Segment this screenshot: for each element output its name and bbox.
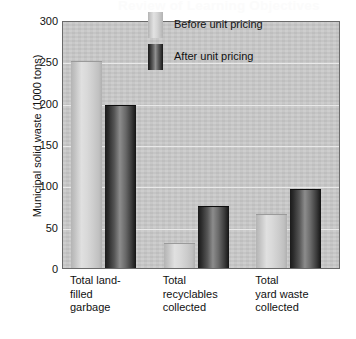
bar-after: [105, 105, 136, 268]
legend-label-after: After unit pricing: [174, 50, 253, 62]
y-axis-tick-labels: 050100150200250300: [0, 0, 58, 339]
bar-before: [71, 61, 102, 268]
legend-swatch-before-icon: [148, 12, 163, 38]
y-tick-label: 200: [2, 99, 58, 109]
x-category-label: Total yard waste collected: [255, 274, 308, 315]
x-category-label: Total recyclables collected: [163, 274, 218, 315]
bar-after: [290, 189, 321, 268]
y-tick-label: 150: [2, 140, 58, 150]
y-tick-label: 250: [2, 57, 58, 67]
y-tick-label: 50: [2, 223, 58, 233]
legend-item-before: Before unit pricing: [148, 12, 278, 38]
legend-item-after: After unit pricing: [148, 44, 278, 70]
y-tick-label: 0: [2, 264, 58, 274]
bar-before: [164, 243, 195, 268]
chart-legend: Before unit pricing After unit pricing: [148, 12, 278, 76]
legend-label-before: Before unit pricing: [174, 18, 263, 30]
y-tick-label: 100: [2, 181, 58, 191]
legend-swatch-after-icon: [148, 44, 163, 70]
y-tick-label: 300: [2, 16, 58, 26]
bar-after: [198, 206, 229, 268]
bar-chart-figure: Review of Learning Objectives Municipal …: [0, 0, 356, 339]
bar-before: [256, 214, 287, 268]
x-axis-category-labels: Total land- filled garbageTotal recyclab…: [62, 274, 356, 334]
x-category-label: Total land- filled garbage: [70, 274, 121, 315]
